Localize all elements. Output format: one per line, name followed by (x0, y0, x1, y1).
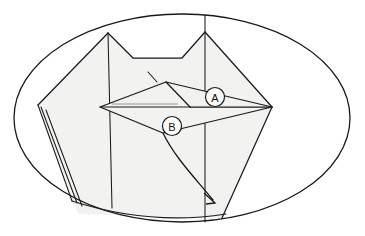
label-B: B (163, 117, 182, 136)
label-B-text: B (168, 121, 175, 133)
label-A: A (206, 88, 225, 107)
diagram-canvas: A B (0, 0, 365, 236)
origami-diagram-figure: A B (0, 0, 365, 236)
label-A-text: A (211, 92, 219, 104)
